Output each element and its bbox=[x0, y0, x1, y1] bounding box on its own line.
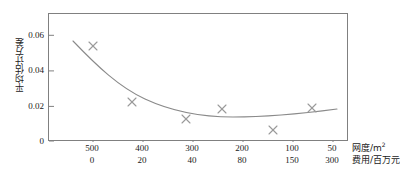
data-point bbox=[218, 105, 226, 113]
data-point bbox=[89, 42, 97, 50]
plot-canvas bbox=[49, 14, 349, 142]
y-tick-label: 0.06 bbox=[20, 31, 44, 40]
x-tick-label-primary: 50 bbox=[328, 143, 337, 154]
y-tick-marks bbox=[49, 35, 54, 142]
y-tick-label: 0.04 bbox=[20, 66, 44, 75]
x-axis-secondary-title: 费用/百万元 bbox=[352, 155, 400, 166]
x-tick-label-secondary: 0 bbox=[90, 155, 95, 166]
x-tick-label-primary: 400 bbox=[135, 143, 149, 154]
fitted-curve bbox=[73, 41, 337, 117]
data-point bbox=[308, 104, 316, 112]
data-point bbox=[128, 98, 136, 106]
x-tick-label-secondary: 300 bbox=[325, 155, 339, 166]
x-tick-label-secondary: 80 bbox=[238, 155, 247, 166]
y-tick-label: 0.02 bbox=[20, 102, 44, 111]
x-tick-label-primary: 200 bbox=[235, 143, 249, 154]
plot-area bbox=[48, 13, 348, 141]
x-axis-primary-title: 网度/m2 bbox=[352, 143, 386, 154]
x-tick-marks bbox=[93, 141, 333, 142]
data-point bbox=[182, 115, 190, 123]
x-tick-label-primary: 100 bbox=[285, 143, 299, 154]
data-point-markers bbox=[89, 42, 316, 134]
x-tick-label-primary: 500 bbox=[85, 143, 99, 154]
x-tick-label-primary: 300 bbox=[185, 143, 199, 154]
x-tick-label-secondary: 40 bbox=[188, 155, 197, 166]
x-axis-secondary-tick-labels: 0 20 40 80 150 300 费用/百万元 bbox=[0, 155, 392, 167]
data-point bbox=[269, 126, 277, 134]
x-axis-primary-tick-labels: 500 400 300 200 100 50 网度/m2 bbox=[0, 143, 392, 155]
x-tick-label-secondary: 150 bbox=[285, 155, 299, 166]
x-tick-label-secondary: 20 bbox=[138, 155, 147, 166]
